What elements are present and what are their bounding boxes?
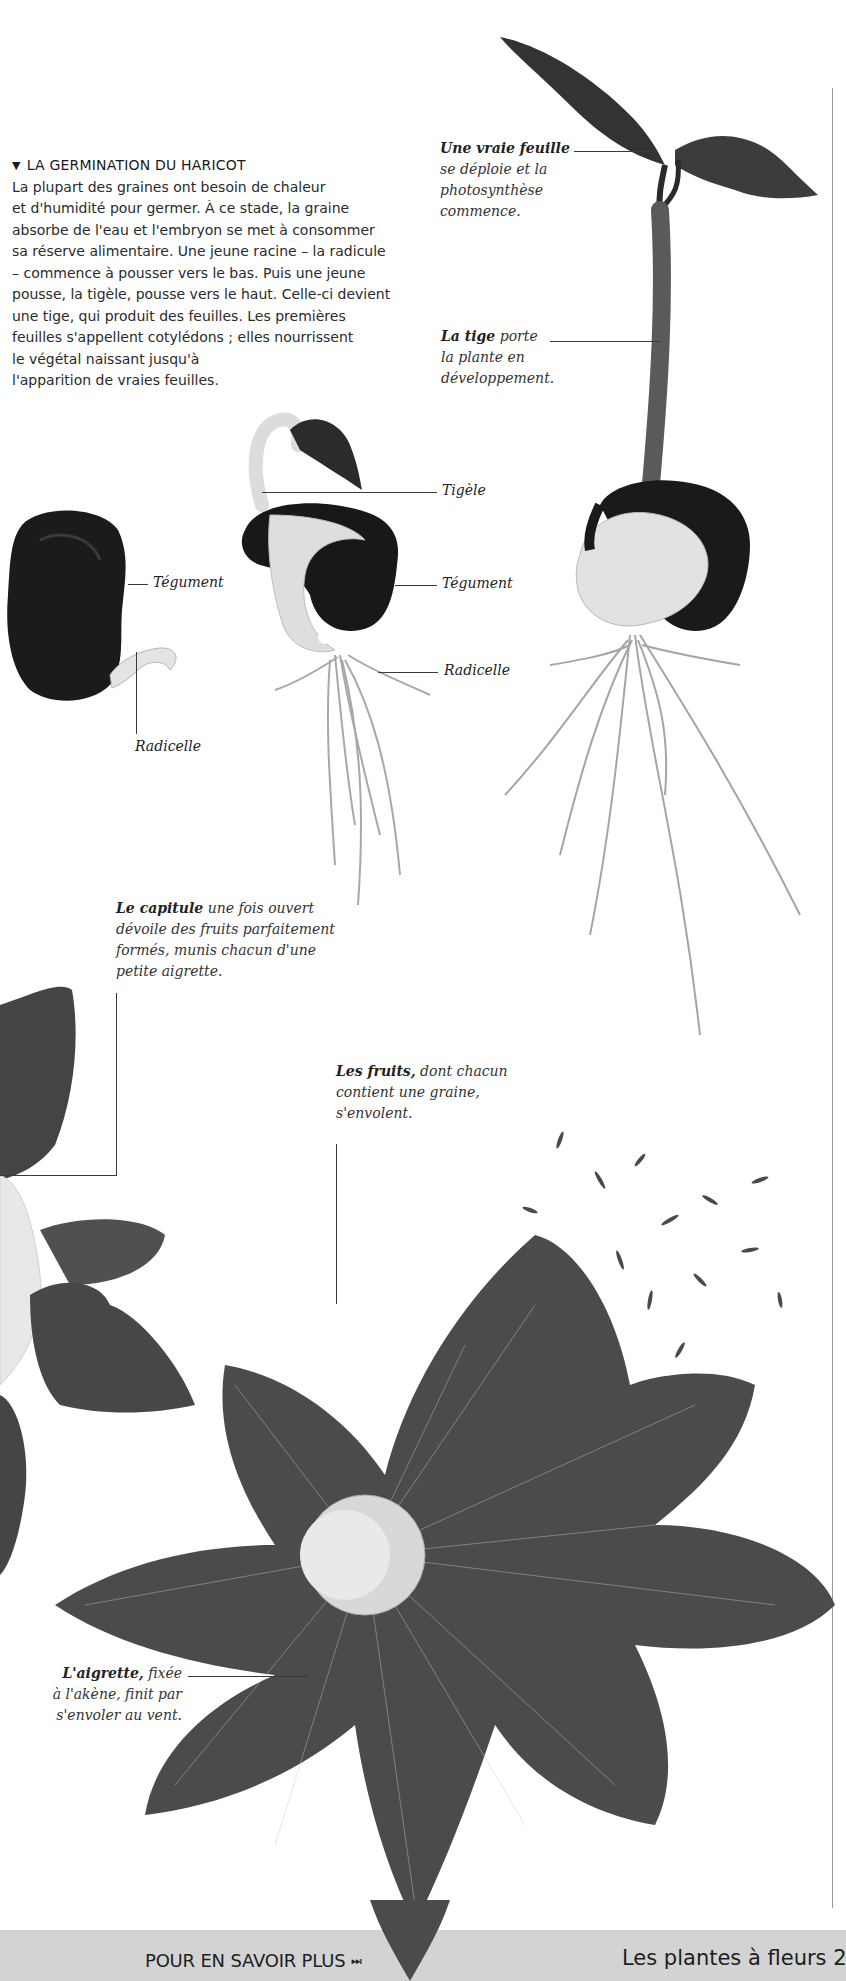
bean-seed-image: [0, 500, 190, 720]
intro-line: feuilles s'appellent cotylédons ; elles …: [12, 327, 412, 349]
caption-vraie-feuille-bold: Une vraie feuille: [440, 140, 570, 156]
caption-fruits-rest: dont chacun: [416, 1063, 508, 1079]
caption-line: photosynthèse: [440, 180, 590, 201]
intro-line: absorbe de l'eau et l'embryon se met à c…: [12, 220, 412, 242]
fast-forward-icon: ⏭: [351, 1954, 362, 1968]
caption-line: la plante en: [441, 347, 591, 368]
caption-line: contient une graine,: [336, 1082, 536, 1103]
caption-line: à l'akène, finit par: [40, 1684, 182, 1705]
leader-line: [136, 652, 137, 734]
caption-line: s'envolent.: [336, 1103, 536, 1124]
label-sprout-tigele: Tigèle: [442, 482, 486, 498]
caption-line: développement.: [441, 368, 591, 389]
section-heading-text: LA GERMINATION DU HARICOT: [27, 155, 246, 177]
leader-line: [128, 584, 148, 585]
caption-vraie-feuille: Une vraie feuille se déploie et la photo…: [440, 138, 590, 222]
germination-intro: ▼ LA GERMINATION DU HARICOT La plupart d…: [12, 155, 412, 392]
caption-tige: La tige porte la plante en développement…: [441, 326, 591, 389]
intro-line: une tige, qui produit des feuilles. Les …: [12, 306, 412, 328]
more-info-link[interactable]: POUR EN SAVOIR PLUS ⏭: [145, 1950, 362, 1971]
caption-tige-rest: porte: [495, 328, 537, 344]
caption-line: formés, munis chacun d'une: [116, 940, 376, 961]
caption-capitule-bold: Le capitule: [116, 900, 203, 916]
leader-line: [262, 492, 437, 493]
caption-aigrette-bold: L'aigrette,: [62, 1665, 143, 1681]
intro-line: La plupart des graines ont besoin de cha…: [12, 177, 412, 199]
caption-line: se déploie et la: [440, 159, 590, 180]
intro-line: sa réserve alimentaire. Une jeune racine…: [12, 241, 412, 263]
intro-line: pousse, la tigèle, pousse vers le haut. …: [12, 284, 412, 306]
dandelion-rosette-image: [55, 1225, 835, 1965]
caption-fruits: Les fruits, dont chacun contient une gra…: [336, 1061, 536, 1124]
chapter-title: Les plantes à fleurs 2: [622, 1946, 846, 1970]
label-seed-tegument: Tégument: [153, 574, 224, 590]
section-heading: ▼ LA GERMINATION DU HARICOT: [12, 155, 412, 177]
caption-line: petite aigrette.: [116, 961, 376, 982]
caption-line: commence.: [440, 201, 590, 222]
leader-line: [378, 672, 438, 673]
intro-line: et d'humidité pour germer. À ce stade, l…: [12, 198, 412, 220]
caption-line: s'envoler au vent.: [40, 1705, 182, 1726]
triangle-down-icon: ▼: [12, 155, 21, 177]
intro-line: le végétal naissant jusqu'à: [12, 349, 412, 371]
caption-fruits-bold: Les fruits,: [336, 1063, 416, 1079]
intro-line: – commence à pousser vers le bas. Puis u…: [12, 263, 412, 285]
caption-aigrette-rest: fixée: [144, 1665, 182, 1681]
leader-line: [116, 993, 117, 1176]
label-seed-radicelle: Radicelle: [135, 738, 201, 754]
leader-line: [0, 1175, 117, 1176]
caption-line: dévoile des fruits parfaitement: [116, 919, 376, 940]
more-info-label: POUR EN SAVOIR PLUS: [145, 1950, 345, 1971]
leader-line: [395, 585, 437, 586]
caption-capitule: Le capitule une fois ouvert dévoile des …: [116, 898, 376, 982]
intro-line: l'apparition de vraies feuilles.: [12, 370, 412, 392]
leader-line: [188, 1676, 308, 1677]
caption-aigrette: L'aigrette, fixée à l'akène, finit par s…: [40, 1663, 182, 1726]
caption-capitule-rest: une fois ouvert: [203, 900, 314, 916]
caption-tige-bold: La tige: [441, 328, 495, 344]
leaf-tip-image: [370, 1900, 450, 1981]
